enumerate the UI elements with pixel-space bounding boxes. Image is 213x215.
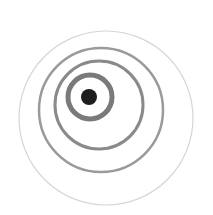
center-dot (81, 89, 97, 105)
outer-ring (19, 31, 193, 205)
ripple-diagram (0, 0, 213, 215)
ring-4 (39, 48, 163, 172)
rings-group (19, 31, 193, 205)
